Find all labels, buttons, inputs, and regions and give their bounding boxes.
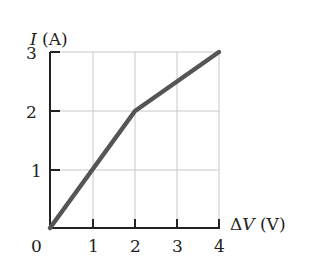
y-tick-2: 2 <box>26 102 37 122</box>
y-tick-1: 1 <box>31 161 42 181</box>
x-tick-2: 2 <box>130 236 141 256</box>
x-tick-1: 1 <box>88 236 99 256</box>
grid-lines <box>50 52 219 228</box>
x-tick-4: 4 <box>214 236 225 256</box>
x-axis-label: ΔV (V) <box>230 214 286 234</box>
origin-label: 0 <box>31 236 42 256</box>
iv-chart: I (A) 3 2 1 0 1 2 3 4 ΔV (V) <box>0 0 309 267</box>
x-tick-3: 3 <box>172 236 183 256</box>
y-tick-3: 3 <box>26 43 37 63</box>
